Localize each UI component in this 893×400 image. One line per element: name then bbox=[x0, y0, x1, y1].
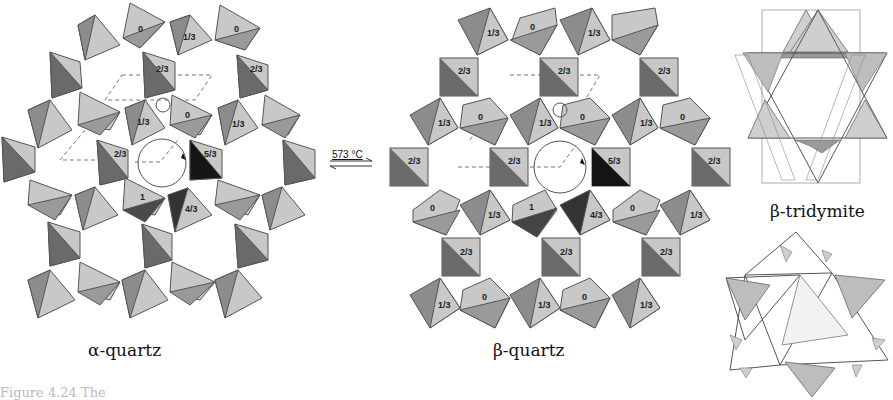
alpha-quartz-caption: α-quartz bbox=[88, 340, 161, 360]
svg-text:1/3: 1/3 bbox=[438, 118, 451, 128]
beta-row-a: 1/3 0 1/3 bbox=[458, 8, 658, 55]
alpha-label: 0 bbox=[138, 24, 143, 34]
alpha-label: 1/3 bbox=[183, 32, 196, 42]
svg-text:1/3: 1/3 bbox=[640, 118, 653, 128]
alpha-label: 0 bbox=[185, 110, 190, 120]
alpha-label: 1/3 bbox=[137, 117, 150, 127]
svg-text:0: 0 bbox=[680, 112, 685, 122]
svg-text:2/3: 2/3 bbox=[558, 66, 571, 76]
alpha-label: 0 bbox=[234, 24, 239, 34]
svg-text:0: 0 bbox=[580, 112, 585, 122]
svg-text:1/3: 1/3 bbox=[488, 210, 501, 220]
beta-quartz-structure: 1/3 0 1/3 2/3 2/3 2/3 1/3 bbox=[390, 8, 730, 360]
beta-row-c: 1/3 0 1/3 0 1/3 0 bbox=[410, 98, 710, 145]
rotation-circle-small bbox=[156, 98, 170, 112]
svg-text:2/3: 2/3 bbox=[660, 247, 673, 257]
svg-text:2/3: 2/3 bbox=[658, 66, 671, 76]
beta-row-g: 1/3 0 1/3 0 1/3 bbox=[410, 278, 660, 328]
figure-caption-partial: Figure 4.24 The bbox=[0, 385, 106, 400]
alpha-quartz-structure: 0 1/3 0 2/3 2/3 1/3 0 1/3 bbox=[2, 3, 315, 360]
beta-tridymite-structure: β-tridymite bbox=[726, 10, 888, 397]
alpha-label: 5/3 bbox=[204, 149, 217, 159]
beta-tridymite-caption: β-tridymite bbox=[770, 201, 865, 221]
beta-quartz-caption: β-quartz bbox=[493, 340, 564, 360]
alpha-label: 1 bbox=[140, 192, 145, 202]
beta-row-e: 0 1/3 1 4/3 0 1/3 bbox=[413, 190, 710, 237]
phase-transition: 573 °C bbox=[330, 149, 372, 169]
svg-text:2/3: 2/3 bbox=[508, 156, 521, 166]
svg-text:0: 0 bbox=[430, 203, 435, 213]
svg-text:1/3: 1/3 bbox=[690, 210, 703, 220]
svg-text:2/3: 2/3 bbox=[560, 247, 573, 257]
svg-text:5/3: 5/3 bbox=[608, 156, 621, 166]
svg-text:1: 1 bbox=[529, 202, 534, 212]
svg-text:4/3: 4/3 bbox=[590, 210, 603, 220]
svg-text:1/3: 1/3 bbox=[538, 300, 551, 310]
svg-text:0: 0 bbox=[482, 292, 487, 302]
svg-text:1/3: 1/3 bbox=[487, 28, 500, 38]
alpha-label: 1/3 bbox=[232, 119, 245, 129]
svg-text:2/3: 2/3 bbox=[460, 247, 473, 257]
svg-text:2/3: 2/3 bbox=[408, 156, 421, 166]
beta-row-b: 2/3 2/3 2/3 bbox=[440, 58, 678, 96]
svg-text:0: 0 bbox=[582, 292, 587, 302]
svg-text:2/3: 2/3 bbox=[708, 156, 721, 166]
transition-temperature: 573 °C bbox=[332, 149, 363, 160]
alpha-label: 2/3 bbox=[250, 64, 263, 74]
beta-row-f: 2/3 2/3 2/3 bbox=[442, 238, 680, 276]
alpha-label: 2/3 bbox=[114, 149, 127, 159]
svg-text:1/3: 1/3 bbox=[588, 28, 601, 38]
svg-text:1/3: 1/3 bbox=[438, 300, 451, 310]
svg-text:1/3: 1/3 bbox=[640, 300, 653, 310]
svg-text:0: 0 bbox=[530, 22, 535, 32]
svg-text:1/3: 1/3 bbox=[539, 118, 552, 128]
svg-text:2/3: 2/3 bbox=[458, 66, 471, 76]
alpha-unit-cell-left bbox=[60, 130, 100, 160]
alpha-label: 2/3 bbox=[156, 64, 169, 74]
svg-text:0: 0 bbox=[630, 203, 635, 213]
svg-text:0: 0 bbox=[478, 112, 483, 122]
rotation-circle-large bbox=[138, 139, 186, 187]
alpha-label: 4/3 bbox=[185, 204, 198, 214]
